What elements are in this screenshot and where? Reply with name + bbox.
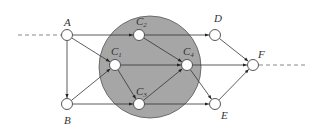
node-B (62, 99, 73, 110)
edge-E-F (219, 69, 249, 100)
node-E (210, 99, 221, 110)
network-diagram: ABC1C2C3C4DEF (0, 0, 323, 133)
node-D (210, 30, 221, 41)
node-A (62, 30, 73, 41)
node-label-E: E (220, 109, 228, 121)
node-label-A: A (63, 16, 71, 28)
node-label-D: D (213, 12, 222, 24)
node-C2 (134, 30, 145, 41)
node-F (248, 60, 259, 71)
node-C3 (134, 99, 145, 110)
node-C1 (110, 60, 121, 71)
node-label-F: F (257, 48, 265, 60)
node-C4 (182, 60, 193, 71)
node-label-B: B (64, 114, 71, 126)
edge-D-F (219, 38, 248, 61)
